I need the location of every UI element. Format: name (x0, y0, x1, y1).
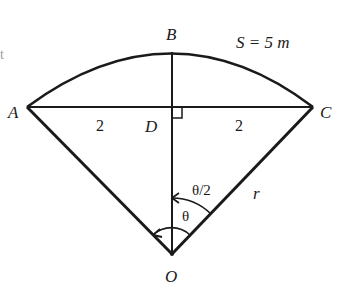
arc-ABC (27, 54, 313, 108)
vertex-O-dot (170, 252, 174, 256)
arc-length-label: S = 5 m (236, 33, 290, 52)
right-angle-marker (172, 107, 182, 118)
angle-theta-label: θ (182, 208, 189, 224)
angle-half-theta-arc (172, 198, 211, 214)
label-O: O (165, 267, 177, 286)
angle-half-theta-label: θ/2 (192, 182, 211, 198)
radius-label: r (253, 184, 260, 203)
label-A: A (7, 103, 19, 122)
half-chord-right-label: 2 (235, 117, 243, 134)
diagram-canvas: t B A C D O S = 5 m 2 2 r θ θ/2 (0, 0, 351, 293)
label-C: C (320, 103, 332, 122)
half-chord-left-label: 2 (96, 117, 104, 134)
label-D: D (144, 117, 158, 136)
edge-artifact-glyph: t (0, 47, 4, 62)
label-B: B (166, 25, 177, 44)
